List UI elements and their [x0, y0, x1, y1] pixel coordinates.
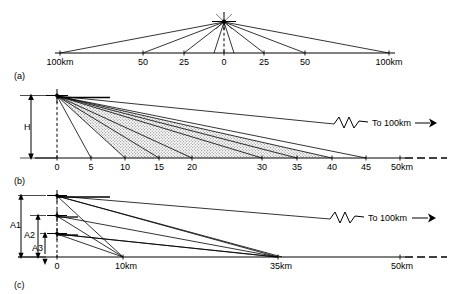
panel-b-tick-label-6: 35 [292, 162, 302, 172]
panel-b-tick-label-2: 10 [120, 162, 130, 172]
panel-c-dimension-a2-label: A2 [24, 230, 35, 240]
panel-a-source-marker [212, 12, 236, 30]
panel-b: H 0 5 10 15 20 30 35 40 45 50km To 100km [14, 89, 447, 186]
panel-a-tick-label-1: 50 [138, 57, 148, 67]
panel-b-label: (b) [14, 176, 25, 186]
panel-c-tick-label-3: 50km [391, 261, 413, 271]
panel-c-tick-label-2: 35km [270, 261, 292, 271]
panel-b-tick-label-8: 45 [361, 162, 371, 172]
panel-c-zigzag-break-icon [330, 212, 364, 223]
panel-b-zigzag-break-icon [334, 117, 368, 128]
panel-c-source-marker-a3 [47, 228, 67, 240]
panel-b-tick-label-4: 20 [187, 162, 197, 172]
panel-b-tick-label-7: 40 [327, 162, 337, 172]
panel-b-tick-label-5: 30 [257, 162, 267, 172]
panel-a-tick-label-3: 0 [221, 57, 226, 67]
panel-a-label: (a) [14, 71, 25, 81]
panel-b-tick-label-3: 15 [154, 162, 164, 172]
panel-c-dimension-a3-label: A3 [32, 243, 43, 253]
panel-c-source-marker-a1 [47, 190, 67, 202]
panel-a: 100km 50 25 0 25 50 100km (a) [14, 12, 403, 81]
panel-a-tick-label-0: 100km [46, 57, 73, 67]
panel-b-tick-label-0: 0 [54, 162, 59, 172]
ray-path-diagram: 100km 50 25 0 25 50 100km (a) [0, 0, 449, 294]
panel-c-tick-label-0: 0 [54, 261, 59, 271]
panel-b-tick-label-1: 5 [88, 162, 93, 172]
panel-a-tick-label-6: 100km [375, 57, 402, 67]
panel-c-break-label: To 100km [368, 213, 407, 223]
panel-b-break-arrow-icon [415, 119, 437, 128]
panel-c-dimension-a1-label: A1 [10, 220, 21, 230]
panel-c-tick-label-1: 10km [115, 261, 137, 271]
panel-b-tick-label-9: 50km [391, 162, 413, 172]
panel-a-tick-label-4: 25 [259, 57, 269, 67]
panel-b-break-label: To 100km [372, 118, 411, 128]
panel-a-tick-label-5: 50 [300, 57, 310, 67]
panel-c-label: (c) [14, 280, 25, 290]
panel-c: A1 A2 A3 0 10km 35km 50km [10, 190, 447, 290]
panel-a-tick-label-2: 25 [179, 57, 189, 67]
panel-b-height-label: H [24, 122, 31, 132]
panel-c-break-arrow-icon [412, 214, 436, 223]
